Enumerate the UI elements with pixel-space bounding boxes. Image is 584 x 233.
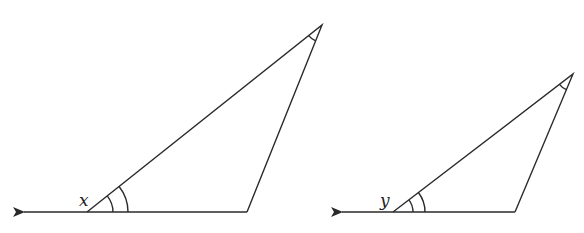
angle-arc-outer-y bbox=[418, 193, 425, 213]
triangle-y bbox=[342, 74, 573, 212]
triangle-x-sides bbox=[87, 25, 322, 212]
angle-arc-top-y bbox=[560, 84, 567, 89]
angle-arc-inner-x bbox=[107, 196, 113, 212]
triangle-y-sides bbox=[393, 74, 573, 212]
angle-arc-outer-x bbox=[119, 187, 128, 213]
triangle-x bbox=[24, 25, 322, 212]
angle-arc-top-x bbox=[309, 36, 316, 41]
angle-arc-inner-y bbox=[409, 200, 413, 212]
angle-label-y: y bbox=[379, 190, 390, 210]
diagram-canvas: x y bbox=[0, 0, 584, 233]
angle-label-x: x bbox=[79, 190, 89, 210]
